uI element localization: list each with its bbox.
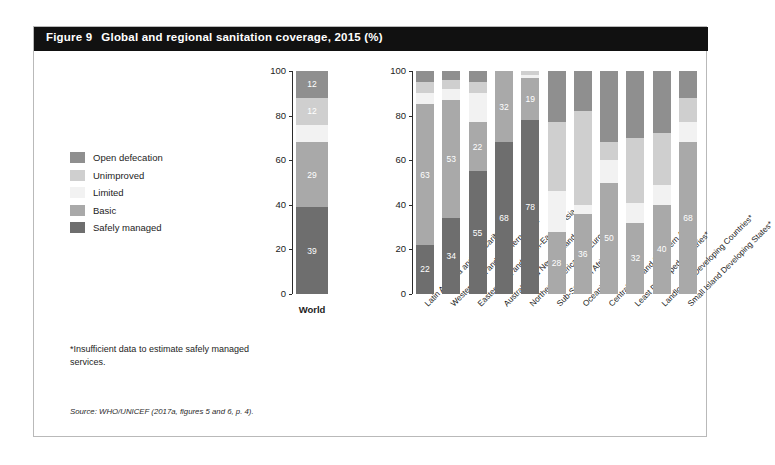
bar-stack[interactable]: 50: [600, 71, 618, 294]
bar-segment[interactable]: 40: [653, 205, 671, 294]
legend-item-label: Open defecation: [93, 152, 163, 163]
bar-segment[interactable]: [416, 71, 434, 82]
legend-item[interactable]: Basic: [70, 202, 163, 220]
bar-segment[interactable]: [296, 125, 328, 143]
legend-item[interactable]: Safely managed: [70, 219, 163, 237]
y-axis-tick-label: 20: [260, 244, 286, 254]
bar-segment[interactable]: 36: [574, 214, 592, 294]
bar-segment[interactable]: [600, 160, 618, 182]
bar-segment[interactable]: 32: [626, 223, 644, 294]
bar-segment[interactable]: 34: [442, 218, 460, 294]
y-axis-tick-label: 80: [380, 111, 406, 121]
bar-segment[interactable]: [626, 138, 644, 203]
bar-segment[interactable]: [653, 133, 671, 184]
bar-segment[interactable]: [574, 205, 592, 214]
bar-segment[interactable]: [653, 185, 671, 205]
source-note: Source: WHO/UNICEF (2017a, figures 5 and…: [70, 407, 254, 416]
bar-stack[interactable]: 7819: [521, 71, 539, 294]
bar-segment[interactable]: [548, 71, 566, 122]
bar-segment[interactable]: 22: [416, 245, 434, 294]
bar-segment[interactable]: 53: [442, 100, 460, 218]
bar-segment[interactable]: [469, 71, 487, 82]
figure-title-text: Global and regional sanitation coverage,…: [101, 31, 382, 43]
bar-stack[interactable]: 68: [679, 71, 697, 294]
bar-segment[interactable]: 22: [469, 122, 487, 171]
bar-segment[interactable]: 12: [296, 71, 328, 98]
y-axis-tick-mark: [289, 205, 292, 206]
y-axis-tick-label: 20: [380, 244, 406, 254]
bar-stack[interactable]: 6832: [495, 71, 513, 294]
bar-segment[interactable]: 68: [679, 142, 697, 294]
legend-item-label: Unimproved: [93, 170, 144, 181]
bar-segment-value: 36: [574, 249, 592, 259]
bar-stack[interactable]: 28: [548, 71, 566, 294]
bar-segment[interactable]: 78: [521, 120, 539, 294]
y-axis-line: [292, 71, 293, 294]
bar-segment[interactable]: [521, 75, 539, 77]
bar-segment[interactable]: [442, 89, 460, 100]
bar-segment[interactable]: [574, 111, 592, 205]
bar-segment[interactable]: 63: [416, 104, 434, 244]
bar-segment[interactable]: [626, 203, 644, 223]
bar-segment[interactable]: 55: [469, 171, 487, 294]
bar-segment[interactable]: 32: [495, 71, 513, 142]
bar-segment[interactable]: [679, 122, 697, 142]
bar-segment-value: 40: [653, 244, 671, 254]
bar-segment[interactable]: 12: [296, 98, 328, 125]
bar-segment[interactable]: [521, 71, 539, 75]
legend-swatch-icon: [70, 222, 85, 233]
bar-segment[interactable]: [548, 191, 566, 231]
legend-item-label: Safely managed: [93, 222, 162, 233]
bar-segment[interactable]: [548, 122, 566, 191]
bar-segment[interactable]: 19: [521, 78, 539, 120]
bar-segment[interactable]: [679, 98, 697, 123]
bar-segment[interactable]: 50: [600, 183, 618, 295]
bar-segment[interactable]: [600, 71, 618, 142]
legend-item[interactable]: Limited: [70, 184, 163, 202]
y-axis-tick-mark: [409, 294, 412, 295]
bar-stack[interactable]: 3453: [442, 71, 460, 294]
bar-segment[interactable]: 39: [296, 207, 328, 294]
legend-item-label: Basic: [93, 205, 116, 216]
legend-swatch-icon: [70, 152, 85, 163]
bar-segment-value: 78: [521, 202, 539, 212]
bar-segment-value: 28: [548, 258, 566, 268]
bar-segment-value: 50: [600, 233, 618, 243]
bar-segment-value: 22: [469, 142, 487, 152]
y-axis-tick-mark: [289, 160, 292, 161]
bar-segment-value: 22: [416, 264, 434, 274]
bar-segment[interactable]: [469, 82, 487, 93]
bar-stack[interactable]: 39291212: [296, 71, 328, 294]
bar-segment[interactable]: [416, 82, 434, 93]
bar-segment-value: 32: [626, 253, 644, 263]
bar-segment[interactable]: [574, 71, 592, 111]
bar-segment-value: 19: [521, 94, 539, 104]
bar-segment-value: 34: [442, 251, 460, 261]
bar-segment[interactable]: 68: [495, 142, 513, 294]
bar-segment[interactable]: [626, 71, 644, 138]
bar-stack[interactable]: 5522: [469, 71, 487, 294]
bar-segment[interactable]: 28: [548, 232, 566, 294]
bar-segment[interactable]: 29: [296, 142, 328, 207]
bar-segment[interactable]: [679, 71, 697, 98]
bar-stack[interactable]: 40: [653, 71, 671, 294]
y-axis-line: [412, 71, 413, 294]
bar-segment[interactable]: [442, 80, 460, 89]
y-axis-tick-label: 0: [260, 289, 286, 299]
bar-stack[interactable]: 2263: [416, 71, 434, 294]
bar-segment[interactable]: [416, 93, 434, 104]
bar-stack[interactable]: 36: [574, 71, 592, 294]
legend-item[interactable]: Open defecation: [70, 149, 163, 167]
bar-segment-value: 68: [679, 213, 697, 223]
y-axis-tick-label: 60: [260, 155, 286, 165]
bar-segment[interactable]: [653, 71, 671, 133]
bar-segment[interactable]: [442, 71, 460, 80]
bar-stack[interactable]: 32: [626, 71, 644, 294]
footnote: *Insufficient data to estimate safely ma…: [70, 343, 280, 368]
legend-item[interactable]: Unimproved: [70, 167, 163, 185]
bar-segment[interactable]: [600, 142, 618, 160]
bar-segment-value: 68: [495, 213, 513, 223]
bar-segment[interactable]: [469, 93, 487, 122]
bar-segment-value: 53: [442, 154, 460, 164]
figure-number: Figure 9: [46, 31, 92, 43]
